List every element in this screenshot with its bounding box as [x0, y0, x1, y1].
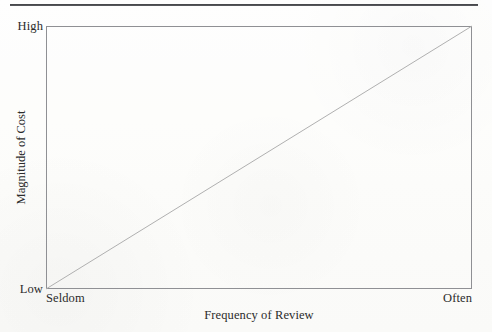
x-axis-tick-often: Often	[340, 292, 472, 305]
y-axis-title: Magnitude of Cost	[14, 26, 30, 289]
plot-line-layer	[46, 26, 472, 289]
x-axis-tick-seldom: Seldom	[46, 292, 85, 305]
figure-root: High Low Seldom Often Frequency of Revie…	[0, 0, 492, 332]
x-axis-title: Frequency of Review	[46, 309, 472, 322]
trend-line	[46, 26, 472, 289]
top-horizontal-rule	[10, 4, 478, 6]
